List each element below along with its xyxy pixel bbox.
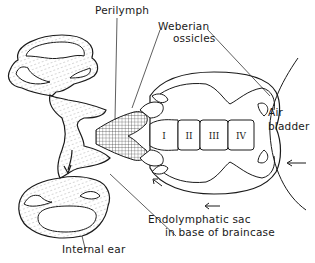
label-weberian-ossicles-line1: Weberian	[158, 20, 209, 32]
label-air-bladder-line2: bladder	[268, 120, 310, 132]
vertebra-4: IV	[236, 131, 247, 141]
upper-inner-ear	[9, 35, 98, 96]
pressure-arrow	[287, 160, 306, 166]
label-internal-ear: Internal ear	[62, 243, 125, 255]
label-endolymphatic-sac-line1: Endolymphatic sac	[148, 213, 251, 225]
label-air-bladder-line1: Air	[268, 106, 283, 118]
weberian-body: I II III IV	[140, 72, 281, 194]
vertebra-3: III	[209, 131, 220, 141]
label-perilymph: Perilymph	[95, 4, 149, 16]
label-endolymphatic-sac-line2: in base of braincase	[165, 226, 275, 238]
vertebra-2: II	[185, 131, 193, 141]
lower-inner-ear	[19, 177, 110, 238]
label-weberian-ossicles-line2: ossicles	[173, 32, 216, 44]
vertebra-1: I	[162, 131, 166, 141]
